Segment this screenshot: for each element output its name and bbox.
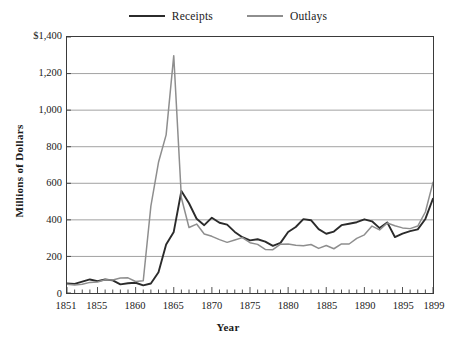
legend-label-receipts: Receipts	[172, 10, 213, 22]
x-tick-label: 1880	[278, 300, 299, 311]
legend-label-outlays: Outlays	[290, 10, 327, 22]
x-tick-label: 1890	[355, 300, 376, 311]
y-tick-label: 1,000	[2, 105, 62, 115]
y-tick-label: 800	[2, 142, 62, 152]
y-tick-label: 400	[2, 215, 62, 225]
x-tick-label: 1875	[240, 300, 261, 311]
x-axis: 1851185518601865187018751880188518901895…	[0, 300, 456, 318]
y-tick-label: $1,400	[2, 31, 62, 41]
x-tick-label: 1860	[125, 300, 146, 311]
x-tick-label: 1895	[393, 300, 414, 311]
y-tick-label: 600	[2, 178, 62, 188]
x-tick-label: 1851	[56, 300, 77, 311]
plot-area	[66, 36, 434, 294]
x-tick-label: 1885	[316, 300, 337, 311]
plot-svg	[67, 37, 433, 293]
y-tick-label: 1,200	[2, 68, 62, 78]
series-line-outlays	[67, 56, 433, 285]
legend-item-outlays: Outlays	[247, 10, 327, 22]
y-axis: Millions of Dollars 02004006008001,0001,…	[0, 0, 62, 340]
x-axis-title: Year	[0, 321, 456, 333]
x-tick-label: 1899	[424, 300, 445, 311]
series-line-receipts	[67, 191, 433, 285]
receipts-outlays-line-chart: Receipts Outlays Millions of Dollars 020…	[0, 0, 456, 340]
x-tick-label: 1870	[201, 300, 222, 311]
legend-item-receipts: Receipts	[129, 10, 213, 22]
x-tick-label: 1865	[163, 300, 184, 311]
y-tick-label: 200	[2, 252, 62, 262]
legend-swatch-outlays	[247, 15, 283, 17]
legend-swatch-receipts	[129, 15, 165, 17]
y-tick-label: 0	[2, 289, 62, 299]
x-tick-label: 1855	[86, 300, 107, 311]
chart-legend: Receipts Outlays	[0, 10, 456, 22]
